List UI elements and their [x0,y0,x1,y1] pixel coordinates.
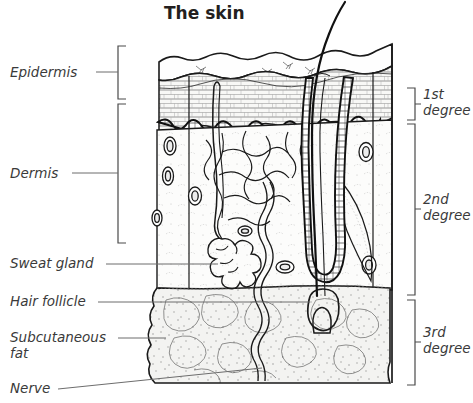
first-degree-bracket [407,88,421,120]
label-epidermis: Epidermis [10,64,77,80]
label-third-degree-line1: 3rd [423,324,446,340]
second-degree-bracket [407,124,421,295]
epidermis-bracket [118,46,126,99]
label-sweat-gland: Sweat gland [10,255,94,271]
label-first-degree-line1: 1st [423,86,445,102]
label-first-degree-line2: degree [423,102,471,118]
skin-diagram-figure: The skin [0,0,473,403]
label-hair-follicle: Hair follicle [10,293,86,309]
third-degree-bracket [407,300,421,385]
label-second-degree-line1: 2nd [423,191,449,207]
label-nerve: Nerve [10,380,50,396]
label-dermis: Dermis [10,165,58,181]
label-subcutaneous-fat-line2: fat [10,345,29,361]
label-third-degree-line2: degree [423,340,471,356]
skin-block [147,2,392,390]
skin-cross-section-illustration: The skin [0,0,473,403]
label-second-degree-line2: degree [423,207,471,223]
label-subcutaneous-fat: Subcutaneous [10,329,106,345]
right-annotations: 1st degree 2nd degree 3rd degree [407,86,471,385]
figure-title: The skin [164,3,245,23]
dermis-bracket [118,104,126,243]
